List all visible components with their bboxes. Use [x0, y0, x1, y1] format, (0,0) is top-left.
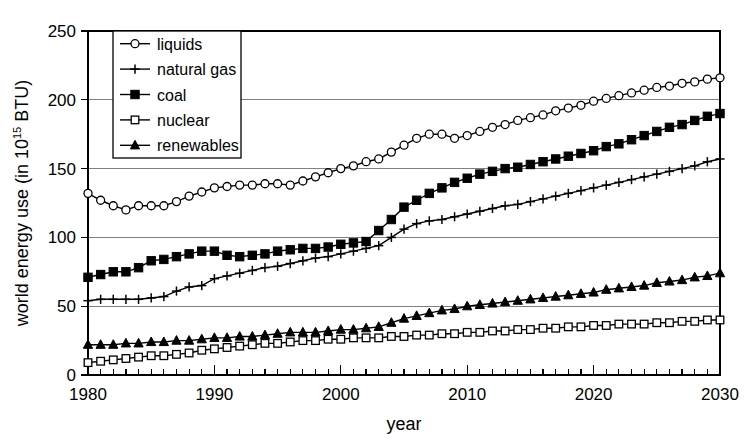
legend-marker-open-square-icon [131, 116, 139, 124]
x-tick-label: 2030 [701, 385, 739, 404]
x-tick-label: 2000 [322, 385, 360, 404]
legend-marker-solid-square-icon [131, 90, 139, 98]
energy-use-line-chart: 050100150200250 198019902000201020202030… [0, 0, 755, 445]
x-axis-title: year [386, 414, 421, 434]
y-tick-label: 0 [67, 366, 76, 385]
series-markers [83, 154, 724, 305]
y-tick-label: 200 [48, 91, 76, 110]
y-tick-label: 50 [57, 297, 76, 316]
y-axis-title-text: world energy use (in 1015 BTU) [11, 80, 32, 327]
legend-label: natural gas [157, 61, 236, 78]
legend-label: coal [157, 87, 186, 104]
y-axis-tick-labels: 050100150200250 [48, 22, 76, 385]
x-tick-label: 1980 [69, 385, 107, 404]
series-natural-gas [83, 154, 724, 305]
legend-label: nuclear [157, 112, 210, 129]
legend-marker-open-circle-icon [131, 40, 139, 48]
y-tick-label: 100 [48, 228, 76, 247]
x-axis-tick-labels: 198019902000201020202030 [69, 385, 739, 404]
y-axis-title: world energy use (in 1015 BTU) [11, 80, 32, 327]
chart-legend: liquidsnatural gascoalnuclearrenewables [113, 31, 241, 158]
x-tick-label: 2010 [448, 385, 486, 404]
x-tick-label: 1990 [195, 385, 233, 404]
y-tick-label: 150 [48, 160, 76, 179]
chart-figure: 050100150200250 198019902000201020202030… [0, 0, 755, 445]
legend-label: liquids [157, 36, 202, 53]
legend-label: renewables [157, 137, 239, 154]
y-tick-label: 250 [48, 22, 76, 41]
y-axis-ticks [81, 31, 88, 375]
x-axis-minor-ticks [88, 369, 720, 375]
x-tick-label: 2020 [575, 385, 613, 404]
